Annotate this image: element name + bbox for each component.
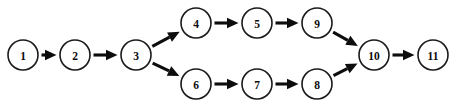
edge-shaft [333,32,348,40]
arrowhead-icon [287,79,299,89]
node-label: 10 [368,50,380,62]
diagram-canvas: 1234596781011 [0,0,458,107]
graph-edge-3-to-6 [153,63,180,76]
graph-node-6[interactable]: 6 [181,69,211,99]
graph-edge-2-to-3 [94,50,118,60]
edge-shaft [333,69,347,76]
arrowhead-icon [227,18,239,28]
graph-edge-4-to-5 [215,18,239,28]
graph-node-5[interactable]: 5 [242,8,272,38]
node-label: 11 [428,50,439,62]
graph-edge-8-to-10 [333,63,357,75]
graph-node-1[interactable]: 1 [8,40,38,70]
node-label: 4 [193,18,199,30]
graph-node-8[interactable]: 8 [302,69,332,99]
graph-edge-1-to-2 [42,50,57,60]
node-label: 9 [314,18,320,30]
graph-edge-3-to-4 [152,32,179,47]
node-label: 1 [20,50,26,62]
node-label: 7 [254,79,260,91]
arrowhead-icon [403,50,415,60]
node-label: 6 [193,79,199,91]
graph-edge-10-to-11 [393,50,415,60]
node-label: 5 [254,18,260,30]
edge-shaft [152,37,169,46]
graph-edge-6-to-7 [215,79,239,89]
node-label: 3 [133,50,139,62]
arrowhead-icon [106,50,118,60]
graph-node-11[interactable]: 11 [418,40,448,70]
graph-svg: 1234596781011 [0,0,458,107]
graph-edge-9-to-10 [333,32,358,46]
graph-node-3[interactable]: 3 [121,40,151,70]
graph-node-7[interactable]: 7 [242,69,272,99]
arrowhead-icon [287,18,299,28]
node-label: 2 [72,50,78,62]
edge-shaft [153,63,169,71]
node-label: 8 [314,79,320,91]
graph-node-2[interactable]: 2 [60,40,90,70]
graph-node-9[interactable]: 9 [302,8,332,38]
arrowhead-icon [227,79,239,89]
graph-edge-7-to-8 [276,79,299,89]
graph-node-4[interactable]: 4 [181,8,211,38]
graph-node-10[interactable]: 10 [359,40,389,70]
graph-edge-5-to-9 [276,18,299,28]
arrowhead-icon [45,50,57,60]
